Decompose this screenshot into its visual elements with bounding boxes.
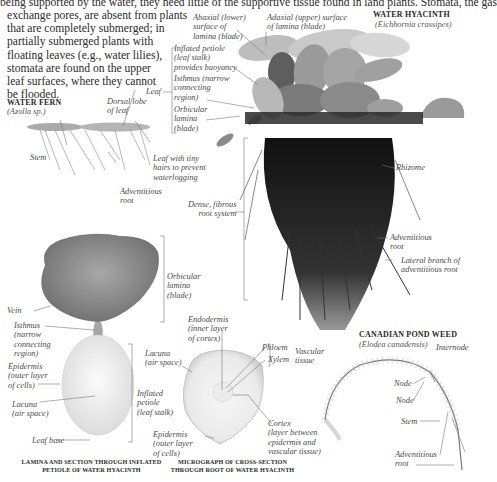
water-hyacinth-title: WATER HYACINTH (373, 10, 450, 20)
caption-root-micrograph: MICROGRAPH OF CROSS-SECTION THROUGH ROOT… (165, 458, 300, 474)
label-vein: Vein (7, 306, 21, 315)
pond-weed-title: CANADIAN POND WEED (359, 330, 457, 340)
label-orbicular-lamina-section: Orbicular lamina (blade) (167, 272, 201, 300)
label-endodermis: Endodermis (inner layer of cortex) (188, 315, 228, 343)
caption-lamina-section: LAMINA AND SECTION THROUGH INFLATED PETI… (14, 458, 169, 474)
label-leaf: Leaf (146, 87, 161, 96)
label-root-system: Dense, fibrous root system (188, 200, 237, 219)
label-epidermis-root: Epidermis (outer layer of cells) (153, 430, 193, 458)
label-fern-stem: Stem (30, 153, 46, 162)
intro-text-line: stomata are found on the upper (7, 62, 187, 75)
label-lacuna-root: Lacuna (air space) (145, 349, 182, 368)
label-isthmus-section: Isthmus (narrow connecting region) (14, 321, 51, 359)
label-adaxial-surface: Adaxial (upper) surface of lamina (blade… (267, 13, 347, 32)
intro-text-line: that are completely submerged; in (7, 22, 187, 35)
label-adventitious-root-hyacinth: Adventitious root (390, 233, 432, 252)
label-abaxial-surface: Abaxial (lower) surface of lamina (blade… (193, 13, 246, 41)
label-lateral-branch: Lateral branch of adventitious root (401, 256, 460, 275)
pond-weed-scientific-name: (Elodea canadensis) (359, 340, 428, 349)
label-vascular-tissue: Vascular tissue (295, 347, 324, 366)
label-lacuna-petiole: Lacuna (air space) (12, 400, 49, 419)
label-leaf-hairs: Leaf with tiny hairs to prevent waterlog… (153, 154, 206, 182)
label-phloem: Phloem (262, 343, 288, 352)
root-cross-section-illustration (183, 350, 263, 444)
label-adventitious-root-pond-weed: Adventitious root (395, 450, 437, 469)
intro-text-line: partially submerged plants with (7, 35, 187, 48)
label-pond-weed-stem: Stem (401, 417, 417, 426)
label-rhizome: Rhizome (396, 163, 425, 172)
intro-text-line-0: being supported by the water, they need … (0, 0, 479, 9)
label-node-2: Node (396, 396, 414, 405)
label-inflated-petiole-buoyancy: Inflated petiole (leaf stalk) provides b… (174, 44, 237, 72)
label-inflated-petiole-section: Inflated petiole (leaf stalk) (137, 389, 173, 417)
label-orbicular-lamina: Orbicular lamina (blade) (174, 105, 208, 133)
water-fern-scientific-name: (Azolla sp.) (7, 107, 46, 116)
water-fern-illustration (27, 123, 150, 176)
label-node-1: Node (394, 379, 412, 388)
label-isthmus: Isthmus (narrow connecting region) (174, 74, 229, 102)
label-xylem: Xylem (268, 355, 289, 364)
label-leaf-base: Leaf base (32, 436, 64, 445)
label-epidermis-petiole: Epidermis (outer layer of cells) (8, 362, 48, 390)
intro-text-line: exchange pores, are absent from plants (7, 9, 187, 22)
label-internode: Internode (436, 343, 469, 352)
intro-text-line: floating leaves (e.g., water lilies), (7, 49, 187, 62)
water-hyacinth-scientific-name: (Eichhornia crassipes) (375, 20, 452, 29)
label-adventitious-root-fern: Adventitious root (120, 187, 162, 206)
label-dorsal-lobe: Dorsal lobe of leaf (107, 97, 147, 116)
label-cortex: Cortex (layer between epidermis and vasc… (268, 419, 321, 457)
